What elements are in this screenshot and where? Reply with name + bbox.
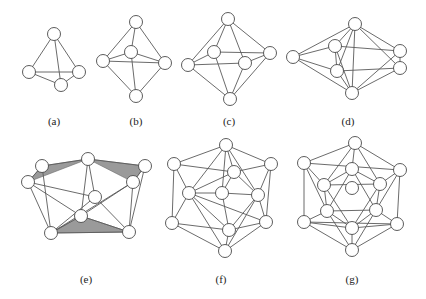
edge [214,52,270,53]
edge [189,193,225,251]
polyhedron-f-bicapped-antiprism [166,139,278,258]
atom-node [222,13,235,26]
atom-node [346,222,359,235]
atom-node [82,153,95,166]
edge [355,143,400,170]
edge [397,170,400,224]
atom-node [391,218,404,231]
atom-node [123,226,136,239]
edge [188,19,228,65]
atom-node [75,210,88,223]
polyhedron-g-icosahedron [298,137,407,257]
edge [103,61,136,96]
panel-label-f: (f) [216,273,227,285]
atom-node [346,163,359,176]
edge [103,61,165,63]
panel-label-a: (a) [48,115,60,127]
edge [266,164,271,222]
atom-node [166,217,179,230]
atom-node [219,245,232,258]
atom-node [97,55,110,68]
edge [355,24,400,51]
edge [293,24,355,57]
edge [172,223,225,251]
atom-node [394,164,407,177]
atom-node [329,40,342,53]
edge [355,24,400,68]
edge [352,24,355,93]
atom-node [223,224,236,237]
atom-node [55,79,68,92]
edge [188,65,230,99]
center-atom-node [346,182,359,195]
edge [225,195,258,251]
atom-node [45,227,58,240]
atom-node [374,178,387,191]
atom-node [22,176,35,189]
atom-node [125,46,138,59]
atom-node [370,204,383,217]
polyhedron-a-tetrahedron [23,28,86,92]
edge [174,164,234,172]
atom-node [130,90,143,103]
atom-node [228,166,241,179]
atom-node [168,158,181,171]
atom-node [331,65,344,78]
edge [304,222,352,250]
edge [337,68,400,71]
atom-node [298,216,311,229]
edge [293,57,352,93]
atom-node [349,18,362,31]
atom-node [73,66,86,79]
atom-node [260,216,273,229]
panel-label-g: (g) [346,273,359,285]
atom-node [159,57,172,70]
atom-node [239,57,252,70]
polyhedron-e-tricapped-prism [22,153,152,240]
atom-node [318,179,331,192]
polyhedron-b-trigonal-bipyramid [97,16,172,103]
panel-label-c: (c) [223,115,235,127]
atom-node [130,16,143,29]
edge [222,145,226,193]
edge [172,164,174,223]
polyhedron-c-octahedron [182,13,277,106]
atom-node [89,191,102,204]
atom-node [127,176,140,189]
edge [226,145,271,164]
panel-label-e: (e) [80,273,92,285]
atom-node [287,51,300,64]
atom-node [265,158,278,171]
atom-node [182,59,195,72]
edge [54,34,61,85]
edge [136,22,165,63]
edge [327,210,376,211]
atom-node [208,46,221,59]
atom-node [224,93,237,106]
panel-label-b: (b) [130,115,143,127]
polyhedron-d-pentagonal-bipyramid [287,18,407,100]
atom-node [394,45,407,58]
panel-label-d: (d) [342,115,355,127]
atom-node [321,205,334,218]
edge [355,143,380,184]
atom-node [139,160,152,173]
atom-node [252,189,265,202]
polyhedra-figure [0,0,426,299]
atom-node [183,187,196,200]
edge [172,223,229,230]
atom-node [23,66,36,79]
atom-node [220,139,233,152]
atom-node [298,157,311,170]
atom-node [36,160,49,173]
atom-node [48,28,61,41]
atom-node [346,87,359,100]
edge [188,63,245,65]
atom-node [394,62,407,75]
atom-node [264,47,277,60]
atom-node [346,244,359,257]
atom-node [349,137,362,150]
atom-node [216,187,229,200]
